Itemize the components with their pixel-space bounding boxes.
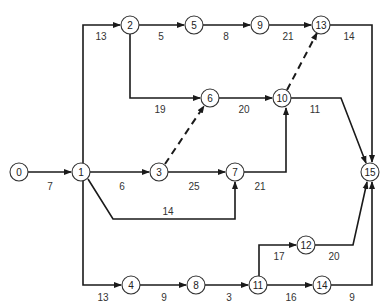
duration-1-3: 6 [119,181,125,192]
duration-11-14: 16 [285,292,297,303]
duration-13-15: 14 [343,31,355,42]
edge-2-6 [130,34,200,98]
edge-1-2 [83,25,120,163]
node-label-14: 14 [316,280,328,291]
node-2: 2 [121,16,139,34]
edge-14-15 [331,182,372,285]
node-label-7: 7 [232,167,238,178]
network-diagram: 7 13 6 14 13 5 19 25 8 20 21 21 11 14 9 … [0,0,386,308]
duration-2-5: 5 [158,31,164,42]
node-15: 15 [361,163,379,181]
node-13: 13 [312,16,330,34]
duration-14-15: 9 [349,292,355,303]
duration-4-8: 9 [161,292,167,303]
duration-5-9: 8 [223,31,229,42]
duration-7-10: 21 [254,181,266,192]
node-9: 9 [251,16,269,34]
duration-2-6: 19 [154,104,166,115]
node-12: 12 [297,236,315,254]
edge-13-15 [330,25,372,162]
duration-8-11: 3 [226,292,232,303]
node-label-3: 3 [156,167,162,178]
edge-10-15 [291,98,366,163]
node-5: 5 [185,16,203,34]
node-label-8: 8 [193,280,199,291]
node-label-1: 1 [78,167,84,178]
duration-9-13: 21 [282,31,294,42]
duration-0-1: 7 [47,181,53,192]
duration-3-7: 25 [188,181,200,192]
duration-1-4: 13 [97,292,109,303]
edge-7-10 [244,108,286,172]
node-label-6: 6 [207,93,213,104]
duration-labels: 7 13 6 14 13 5 19 25 8 20 21 21 11 14 9 … [47,31,355,303]
edge-1-4 [83,181,121,285]
duration-6-10: 20 [238,104,250,115]
node-3: 3 [150,163,168,181]
edge-12-15 [315,182,367,245]
node-label-10: 10 [276,93,288,104]
node-11: 11 [249,276,267,294]
duration-12-15: 20 [328,251,340,262]
node-1: 1 [72,163,90,181]
duration-10-15: 11 [310,104,321,115]
node-label-0: 0 [16,167,22,178]
node-0: 0 [10,163,28,181]
node-label-9: 9 [257,20,263,31]
node-8: 8 [187,276,205,294]
node-label-2: 2 [127,20,133,31]
node-4: 4 [122,276,140,294]
node-14: 14 [313,276,331,294]
duration-1-2: 13 [95,31,107,42]
node-label-5: 5 [191,20,197,31]
node-label-13: 13 [315,20,327,31]
node-label-4: 4 [128,280,134,291]
node-label-15: 15 [364,167,376,178]
node-label-11: 11 [253,280,264,291]
node-label-12: 12 [300,240,312,251]
node-7: 7 [226,163,244,181]
nodes: 0 1 2 3 4 5 6 7 8 9 10 11 12 13 14 15 [10,16,379,294]
duration-1-7: 14 [162,206,174,217]
edges [28,25,372,285]
node-10: 10 [273,89,291,107]
duration-11-12: 17 [273,251,285,262]
node-6: 6 [201,89,219,107]
edge-3-6-dummy [165,106,204,164]
